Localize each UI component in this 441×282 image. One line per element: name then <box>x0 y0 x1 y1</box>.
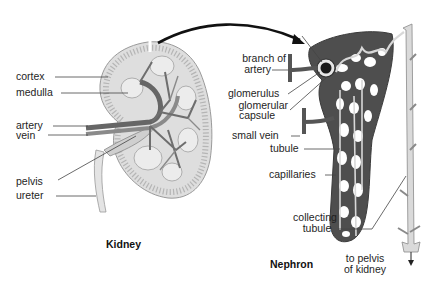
kidney-title: Kidney <box>106 238 141 250</box>
label-to-pelvis-line2: of kidney <box>340 264 390 275</box>
label-cortex: cortex <box>16 71 45 82</box>
kidney-illustration <box>86 38 212 212</box>
label-tubule: tubule <box>270 143 299 154</box>
nephron-title: Nephron <box>270 258 313 270</box>
label-ureter: ureter <box>16 190 43 201</box>
kidney-nephron-diagram: cortex medulla artery vein pelvis ureter… <box>0 0 441 282</box>
diagram-artwork <box>0 0 441 282</box>
arrow-kidney-to-nephron <box>158 25 300 43</box>
label-collecting-tubule-line2: tubule <box>296 223 338 234</box>
label-pelvis: pelvis <box>16 176 43 187</box>
label-branch-of-artery-line2: artery <box>226 64 271 75</box>
label-vein: vein <box>16 130 35 141</box>
label-medulla: medulla <box>16 87 53 98</box>
label-small-vein: small vein <box>232 130 279 141</box>
label-capillaries: capillaries <box>269 169 316 180</box>
label-glomerulus: glomerulus <box>228 88 279 99</box>
label-glomerular-capsule-line2: capsule <box>226 110 288 121</box>
